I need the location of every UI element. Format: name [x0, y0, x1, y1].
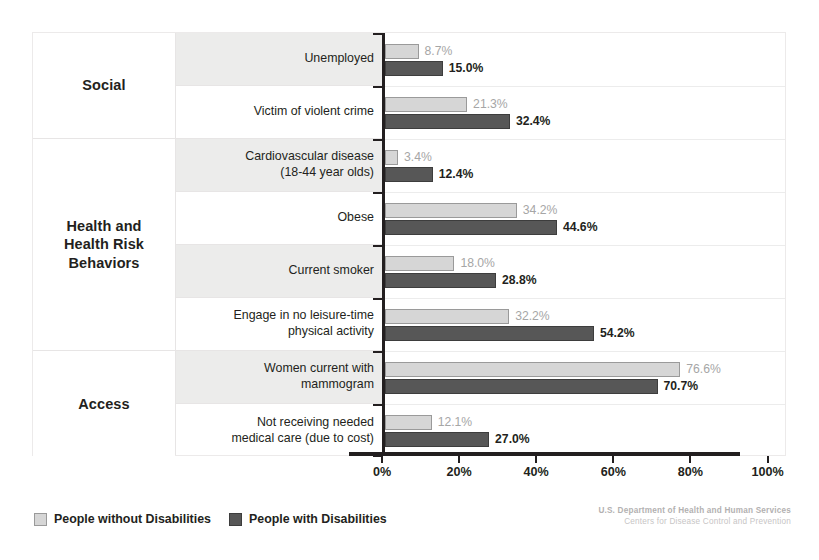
bar-without-disabilities	[385, 44, 419, 59]
row-label-text: Cardiovascular disease(18-44 year olds)	[245, 149, 374, 181]
legend-label: People with Disabilities	[249, 512, 387, 526]
bar-value-without-disabilities: 12.1%	[438, 416, 473, 428]
y-axis-tick	[373, 245, 382, 247]
row-label-cell: Women current withmammogram	[176, 351, 383, 404]
plot-area: 8.7%15.0%21.3%32.4%3.4%12.4%34.2%44.6%18…	[382, 33, 785, 455]
plot-row-separator	[385, 298, 785, 299]
x-axis-tick-label: 20%	[446, 465, 471, 479]
bar-with-disabilities	[385, 114, 510, 129]
bar-with-disabilities	[385, 379, 658, 394]
x-axis-tick	[612, 456, 614, 463]
bar-with-disabilities	[385, 220, 557, 235]
category-group-cell: Health andHealth RiskBehaviors	[33, 139, 175, 351]
plot-row-separator	[385, 192, 785, 193]
x-axis-tick-label: 100%	[751, 465, 783, 479]
bar-value-without-disabilities: 3.4%	[404, 151, 432, 163]
x-axis-tick	[381, 456, 383, 463]
bar-with-disabilities	[385, 61, 443, 76]
agency-attribution: U.S. Department of Health and Human Serv…	[598, 506, 791, 526]
x-axis-tick	[535, 456, 537, 463]
bar-without-disabilities	[385, 362, 680, 377]
y-axis-tick	[373, 139, 382, 141]
row-label-column: UnemployedVictim of violent crimeCardiov…	[175, 33, 382, 455]
bar-value-with-disabilities: 32.4%	[516, 115, 551, 127]
legend-swatch-icon	[229, 513, 242, 526]
y-axis-tick	[373, 298, 382, 300]
bar-with-disabilities	[385, 273, 496, 288]
bar-value-without-disabilities: 76.6%	[686, 363, 721, 375]
x-axis-tick	[458, 456, 460, 463]
y-axis-tick	[373, 192, 382, 194]
bar-with-disabilities	[385, 167, 433, 182]
bar-value-with-disabilities: 54.2%	[600, 327, 635, 339]
category-group-label: Social	[82, 76, 125, 95]
bar-value-with-disabilities: 44.6%	[563, 221, 598, 233]
bar-value-without-disabilities: 21.3%	[473, 98, 508, 110]
x-axis-tick-label: 60%	[601, 465, 626, 479]
category-group-label: Access	[78, 395, 129, 414]
bar-without-disabilities	[385, 97, 467, 112]
legend-item[interactable]: People with Disabilities	[229, 512, 387, 526]
category-group-column: SocialHealth andHealth RiskBehaviorsAcce…	[33, 33, 175, 455]
y-axis-tick	[373, 33, 382, 35]
bar-with-disabilities	[385, 432, 489, 447]
bar-with-disabilities	[385, 326, 594, 341]
plot-row-separator	[385, 245, 785, 246]
bar-without-disabilities	[385, 415, 432, 430]
row-label-cell: Unemployed	[176, 33, 383, 86]
row-label-cell: Not receiving neededmedical care (due to…	[176, 404, 383, 457]
category-group-label: Health andHealth RiskBehaviors	[64, 217, 144, 273]
footer-department-line: U.S. Department of Health and Human Serv…	[598, 506, 791, 515]
row-label-text: Obese	[337, 210, 374, 226]
row-label-text: Not receiving neededmedical care (due to…	[231, 415, 374, 447]
bar-without-disabilities	[385, 309, 509, 324]
y-axis-tick	[373, 404, 382, 406]
row-label-cell: Engage in no leisure-timephysical activi…	[176, 298, 383, 351]
x-axis-tick	[767, 456, 769, 463]
bar-value-with-disabilities: 15.0%	[449, 62, 484, 74]
x-axis-tick-label: 80%	[678, 465, 703, 479]
chart-legend: People without DisabilitiesPeople with D…	[34, 512, 387, 526]
bar-value-with-disabilities: 12.4%	[439, 168, 474, 180]
bar-without-disabilities	[385, 203, 517, 218]
row-label-text: Current smoker	[289, 263, 374, 279]
x-axis-line	[349, 452, 740, 456]
plot-row-separator	[385, 351, 785, 352]
row-label-cell: Victim of violent crime	[176, 86, 383, 139]
legend-swatch-icon	[34, 513, 47, 526]
row-label-text: Women current withmammogram	[264, 361, 374, 393]
legend-item[interactable]: People without Disabilities	[34, 512, 211, 526]
y-axis-tick	[373, 86, 382, 88]
plot-row-separator	[385, 86, 785, 87]
plot-row-separator	[385, 404, 785, 405]
legend-label: People without Disabilities	[54, 512, 211, 526]
bar-value-without-disabilities: 18.0%	[460, 257, 495, 269]
x-axis-tick-label: 40%	[524, 465, 549, 479]
bar-without-disabilities	[385, 150, 398, 165]
bar-value-without-disabilities: 8.7%	[425, 45, 453, 57]
row-label-cell: Obese	[176, 192, 383, 245]
bar-value-with-disabilities: 70.7%	[664, 380, 699, 392]
footer-agency-line: Centers for Disease Control and Preventi…	[598, 517, 791, 526]
chart-table-frame: SocialHealth andHealth RiskBehaviorsAcce…	[32, 32, 786, 456]
bar-value-with-disabilities: 28.8%	[502, 274, 537, 286]
bar-value-with-disabilities: 27.0%	[495, 433, 530, 445]
chart-container: SocialHealth andHealth RiskBehaviorsAcce…	[0, 0, 819, 560]
row-label-text: Engage in no leisure-timephysical activi…	[233, 308, 374, 340]
bar-value-without-disabilities: 34.2%	[523, 204, 558, 216]
y-axis-tick	[373, 351, 382, 353]
plot-row-separator	[385, 139, 785, 140]
x-axis-tick-label: 0%	[373, 465, 391, 479]
category-group-cell: Access	[33, 351, 175, 457]
x-axis-tick	[689, 456, 691, 463]
bar-without-disabilities	[385, 256, 454, 271]
row-label-text: Unemployed	[304, 51, 374, 67]
row-label-text: Victim of violent crime	[254, 104, 374, 120]
category-group-cell: Social	[33, 33, 175, 139]
bar-value-without-disabilities: 32.2%	[515, 310, 550, 322]
row-label-cell: Current smoker	[176, 245, 383, 298]
row-label-cell: Cardiovascular disease(18-44 year olds)	[176, 139, 383, 192]
